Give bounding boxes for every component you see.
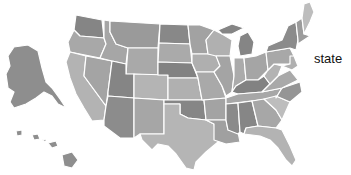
state-wyoming[interactable] [126,48,158,75]
state-south-dakota[interactable] [158,43,192,63]
state-hawaii[interactable] [16,130,78,168]
state-north-dakota[interactable] [159,24,190,44]
state-colorado[interactable] [134,74,168,100]
legend-title: state [314,51,342,66]
state-maine[interactable] [302,2,314,34]
state-kansas[interactable] [168,78,202,100]
state-new-york[interactable] [266,22,298,52]
us-choropleth-map [0,0,351,175]
state-arkansas[interactable] [204,98,226,120]
state-montana[interactable] [110,21,160,48]
state-arizona[interactable] [104,96,134,138]
state-florida[interactable] [244,126,296,166]
state-alaska[interactable] [6,45,66,108]
state-new-mexico[interactable] [134,98,164,138]
